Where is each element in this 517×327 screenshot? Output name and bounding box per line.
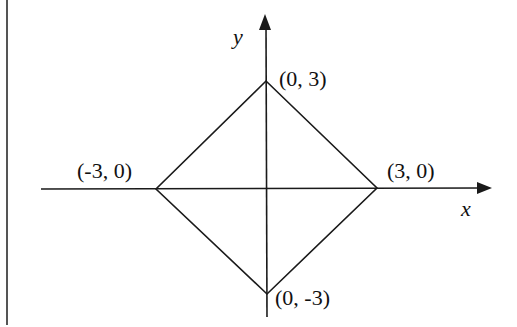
- x-axis-label: x: [461, 198, 471, 220]
- y-axis-arrow-icon: [259, 14, 271, 30]
- x-axis: [41, 188, 482, 189]
- vertex-label-bottom: (0, -3): [275, 287, 330, 309]
- vertex-label-right: (3, 0): [387, 160, 435, 182]
- vertex-label-top: (0, 3): [279, 68, 327, 90]
- y-axis-label: y: [233, 26, 243, 48]
- x-axis-arrow-icon: [477, 182, 492, 194]
- y-axis: [266, 24, 267, 317]
- vertex-label-left: (-3, 0): [77, 160, 132, 182]
